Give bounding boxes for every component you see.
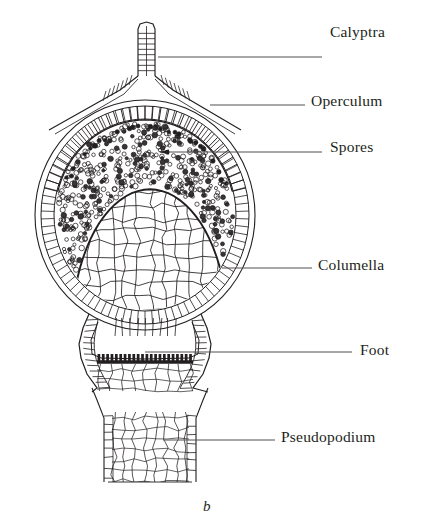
capsule-structure	[35, 100, 255, 347]
figure-container: CalyptraOperculumSporesColumellaFootPseu…	[0, 0, 421, 532]
label-columella: Columella	[318, 256, 384, 274]
label-calyptra: Calyptra	[330, 23, 385, 41]
label-spores: Spores	[330, 138, 373, 156]
illustration-root	[35, 22, 255, 484]
pseudopodium-cells	[111, 412, 189, 484]
figure-caption: b	[203, 498, 211, 515]
label-pseudopodium: Pseudopodium	[281, 428, 376, 446]
label-foot: Foot	[360, 341, 389, 359]
pseudopodium-structure	[92, 388, 208, 484]
label-operculum: Operculum	[311, 92, 383, 110]
